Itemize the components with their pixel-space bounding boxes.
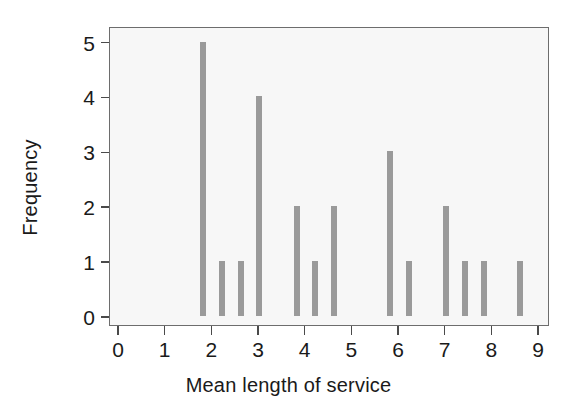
x-tick-mark: [351, 326, 353, 335]
y-axis-title: Frequency: [19, 88, 42, 288]
y-tick-label: 2: [83, 197, 95, 218]
bar: [200, 42, 206, 317]
x-tick-mark: [397, 326, 399, 335]
x-axis: 0123456789: [0, 326, 577, 420]
x-tick-mark: [537, 326, 539, 335]
bar: [481, 261, 487, 316]
bar: [219, 261, 225, 316]
figure: 012345 0123456789 Mean length of service…: [0, 0, 577, 420]
bar: [387, 151, 393, 316]
y-tick-mark: [101, 261, 109, 263]
x-tick-label: 4: [299, 339, 311, 360]
x-tick-label: 6: [392, 339, 404, 360]
y-tick-label: 4: [83, 87, 95, 108]
x-tick-mark: [164, 326, 166, 335]
bar: [256, 96, 262, 316]
y-tick-label: 5: [83, 32, 95, 53]
y-tick-label: 1: [83, 252, 95, 273]
x-tick-mark: [257, 326, 259, 335]
x-tick-mark: [211, 326, 213, 335]
y-tick-mark: [101, 206, 109, 208]
y-tick-mark: [101, 316, 109, 318]
x-tick-label: 2: [205, 339, 217, 360]
x-tick-label: 0: [112, 339, 124, 360]
bar: [312, 261, 318, 316]
bar: [517, 261, 523, 316]
bar: [443, 206, 449, 316]
bars-layer: [110, 28, 548, 325]
y-tick-mark: [101, 152, 109, 154]
bar: [294, 206, 300, 316]
bar: [462, 261, 468, 316]
bar: [406, 261, 412, 316]
plot-area: [109, 27, 549, 326]
y-tick-label: 0: [83, 307, 95, 328]
x-tick-label: 1: [159, 339, 171, 360]
x-tick-mark: [117, 326, 119, 335]
x-tick-label: 8: [485, 339, 497, 360]
bar: [331, 206, 337, 316]
x-tick-mark: [304, 326, 306, 335]
x-tick-label: 5: [345, 339, 357, 360]
x-tick-label: 3: [252, 339, 264, 360]
x-tick-label: 7: [439, 339, 451, 360]
x-tick-mark: [491, 326, 493, 335]
bar: [238, 261, 244, 316]
x-tick-mark: [444, 326, 446, 335]
x-tick-label: 9: [532, 339, 544, 360]
y-tick-label: 3: [83, 142, 95, 163]
y-tick-mark: [101, 42, 109, 44]
y-tick-mark: [101, 97, 109, 99]
x-axis-title: Mean length of service: [0, 374, 577, 397]
